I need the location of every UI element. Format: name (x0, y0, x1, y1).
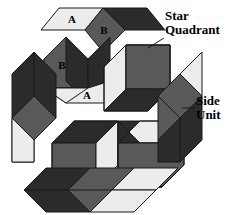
octagonal-star-tiling-figure: A B B A (0, 0, 235, 215)
piece-label-b-top: B (100, 24, 108, 36)
piece-label-b-left: B (58, 59, 66, 71)
piece-label-a-top: A (68, 13, 76, 25)
bottom-side-unit (24, 168, 178, 212)
label-side-unit: Side Unit (196, 94, 221, 121)
right-quadrant-face-medium-b (126, 45, 170, 89)
left-side-unit (12, 52, 56, 162)
piece-label-a-left: A (83, 89, 91, 101)
label-star-quadrant: Star Quadrant (165, 9, 220, 36)
